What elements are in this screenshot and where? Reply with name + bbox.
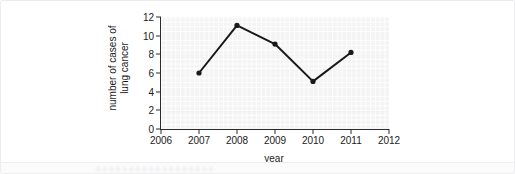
x-axis-tick <box>161 129 162 134</box>
cutoff-caption-strip: a a a a a a a a a a a a a a a a a a <box>1 162 514 173</box>
x-axis-tick-label: 2008 <box>226 135 248 146</box>
y-axis-tick-label: 8 <box>148 49 154 60</box>
y-axis-tick-label: 12 <box>143 12 154 23</box>
x-axis-tick <box>313 129 314 134</box>
y-axis-tick-label: 6 <box>148 68 154 79</box>
series-line <box>199 25 351 81</box>
plot-area: 0246810122006200720082009201020112012 <box>160 17 389 130</box>
chart-page: number of cases of lung cancer 024681012… <box>0 0 515 174</box>
y-axis-tick <box>156 35 161 36</box>
data-point-marker <box>348 50 353 55</box>
x-axis-tick <box>275 129 276 134</box>
y-axis-tick-label: 10 <box>143 30 154 41</box>
x-axis-tick-label: 2011 <box>340 135 362 146</box>
data-point-marker <box>196 70 201 75</box>
cutoff-caption-text: a a a a a a a a a a a a a a a a a a <box>96 165 213 172</box>
x-axis-tick-label: 2009 <box>264 135 286 146</box>
data-series-lung-cancer <box>161 17 389 129</box>
y-axis-title-line-1: number of cases of <box>107 7 118 129</box>
x-axis-tick-label: 2012 <box>378 135 400 146</box>
x-axis-tick-label: 2006 <box>150 135 172 146</box>
y-axis-tick <box>156 17 161 18</box>
x-axis-tick <box>199 129 200 134</box>
y-axis-tick-label: 4 <box>148 86 154 97</box>
data-point-marker <box>272 41 277 46</box>
y-axis-title: number of cases of lung cancer <box>107 7 121 129</box>
data-point-marker <box>234 23 239 28</box>
x-axis-tick-label: 2007 <box>188 135 210 146</box>
y-axis-tick-label: 2 <box>148 105 154 116</box>
x-axis-tick <box>389 129 390 134</box>
y-axis-tick <box>156 73 161 74</box>
x-axis-tick <box>237 129 238 134</box>
data-point-marker <box>310 79 315 84</box>
y-axis-title-line-2: lung cancer <box>119 7 130 129</box>
x-axis-tick <box>351 129 352 134</box>
y-axis-tick <box>156 91 161 92</box>
y-axis-tick <box>156 54 161 55</box>
line-chart-figure: number of cases of lung cancer 024681012… <box>109 7 409 165</box>
x-axis-tick-label: 2010 <box>302 135 324 146</box>
y-axis-tick <box>156 110 161 111</box>
y-axis-tick-label: 0 <box>148 124 154 135</box>
